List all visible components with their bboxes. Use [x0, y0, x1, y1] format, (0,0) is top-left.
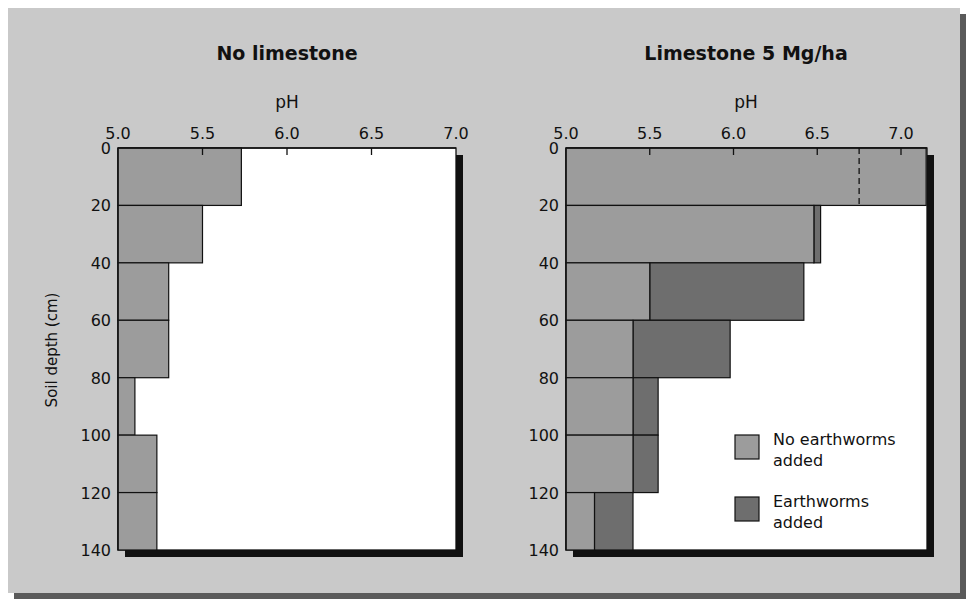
figure: No limestone pH Soil depth (cm) 5.05.56.… — [0, 0, 972, 610]
bar-no-earthworms — [566, 320, 633, 377]
y-tick-label: 0 — [101, 139, 111, 158]
bar-no-earthworms — [566, 493, 594, 550]
legend-label: added — [773, 451, 823, 470]
chart-limestone: Limestone 5 Mg/ha pH 5.05.56.06.57.00204… — [528, 42, 934, 560]
y-axis-label: Soil depth (cm) — [43, 293, 61, 408]
bar — [118, 435, 157, 492]
x-axis-label: pH — [734, 92, 758, 112]
plot-area: 5.05.56.06.57.0020406080100120140 — [80, 124, 468, 560]
bar — [118, 205, 203, 262]
chart-no-limestone: No limestone pH Soil depth (cm) 5.05.56.… — [43, 42, 469, 560]
y-tick-label: 120 — [528, 484, 559, 503]
y-tick-label: 0 — [549, 139, 559, 158]
x-tick-label: 6.0 — [721, 124, 746, 143]
y-tick-label: 20 — [539, 196, 559, 215]
x-tick-label: 6.5 — [359, 124, 384, 143]
bar — [118, 493, 157, 550]
x-axis-label: pH — [275, 92, 299, 112]
y-tick-label: 120 — [80, 484, 111, 503]
bar-no-earthworms — [566, 435, 633, 492]
x-tick-label: 6.5 — [805, 124, 830, 143]
bar-earthworms — [633, 378, 658, 435]
y-tick-label: 20 — [91, 196, 111, 215]
y-tick-label: 60 — [91, 311, 111, 330]
y-tick-label: 80 — [91, 369, 111, 388]
y-tick-label: 80 — [539, 369, 559, 388]
bar-no-earthworms — [566, 378, 633, 435]
legend-label: added — [773, 513, 823, 532]
bar — [118, 320, 169, 377]
y-tick-label: 140 — [80, 541, 111, 560]
bar-earthworms — [594, 493, 633, 550]
bar — [118, 148, 241, 205]
bar-earthworms — [633, 320, 730, 377]
y-tick-label: 40 — [539, 254, 559, 273]
y-tick-label: 140 — [528, 541, 559, 560]
plot-area: 5.05.56.06.57.0020406080100120140 — [528, 124, 934, 560]
y-tick-label: 60 — [539, 311, 559, 330]
bar — [566, 148, 926, 205]
bar-earthworms — [650, 263, 804, 320]
legend-swatch-no-earthworms — [735, 435, 759, 459]
chart-title: No limestone — [216, 42, 357, 64]
y-tick-label: 40 — [91, 254, 111, 273]
x-tick-label: 5.5 — [637, 124, 662, 143]
chart-title: Limestone 5 Mg/ha — [644, 42, 847, 64]
y-tick-label: 100 — [528, 426, 559, 445]
legend-label: No earthworms — [773, 430, 896, 449]
legend-label: Earthworms — [773, 492, 869, 511]
bar-no-earthworms — [566, 205, 814, 262]
bar-earthworms — [633, 435, 658, 492]
x-tick-label: 7.0 — [888, 124, 913, 143]
bar-no-earthworms — [566, 263, 650, 320]
y-tick-label: 100 — [80, 426, 111, 445]
bar — [118, 378, 135, 435]
x-tick-label: 5.5 — [190, 124, 215, 143]
x-tick-label: 7.0 — [443, 124, 468, 143]
bar-earthworms — [814, 205, 821, 262]
x-tick-label: 6.0 — [274, 124, 299, 143]
bar — [118, 263, 169, 320]
legend-swatch-earthworms — [735, 497, 759, 521]
